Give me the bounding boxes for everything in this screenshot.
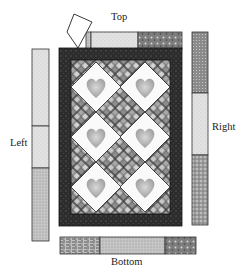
top-border-strip [86, 32, 182, 49]
quilt-top [59, 48, 182, 226]
label-left: Left [10, 137, 28, 148]
bottom-border-strip [60, 237, 196, 254]
label-bottom: Bottom [111, 256, 143, 267]
quilt-diagram [0, 0, 249, 274]
label-top: Top [111, 11, 127, 22]
right-border-strip [192, 32, 208, 225]
left-border-strip [32, 49, 49, 241]
label-right: Right [212, 121, 235, 132]
